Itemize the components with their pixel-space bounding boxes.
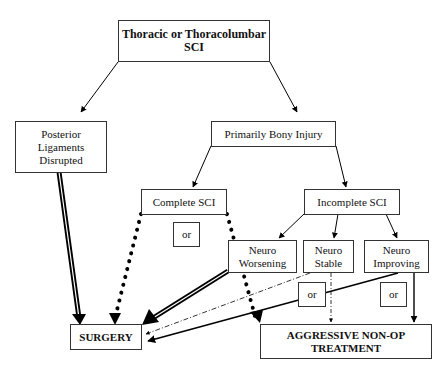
edge-incomplete-improving [386, 214, 397, 238]
node-primarily-bony: Primarily Bony Injury [211, 121, 336, 147]
edge-posterior-surgery [59, 172, 86, 325]
edge-worsening-surgery [142, 271, 228, 325]
edge-root-bony [270, 62, 297, 112]
edge-bony-complete [193, 146, 211, 187]
node-neuro-worsening: Neuro Worsening [228, 240, 297, 273]
node-root: Thoracic or Thoracolumbar SCI [118, 20, 270, 62]
node-aggressive-nonop: AGGRESSIVE NON-OP TREATMENT [260, 324, 432, 359]
edge-incomplete-stable [334, 214, 338, 238]
node-surgery: SURGERY [70, 324, 142, 350]
edge-root-posterior [81, 62, 118, 112]
edge-incomplete-worsening [279, 214, 304, 238]
or-box-stable: or [298, 282, 326, 307]
node-neuro-improving: Neuro Improving [364, 240, 429, 273]
edge-bony-incomplete [336, 146, 346, 187]
or-box-complete: or [173, 222, 200, 247]
edge-complete-surgery [115, 214, 141, 318]
node-neuro-stable: Neuro Stable [303, 240, 354, 273]
node-posterior-ligaments: Posterior Ligaments Disrupted [15, 121, 107, 173]
or-box-improving: or [380, 282, 407, 307]
node-incomplete-sci: Incomplete SCI [304, 189, 400, 215]
node-complete-sci: Complete SCI [141, 189, 227, 215]
